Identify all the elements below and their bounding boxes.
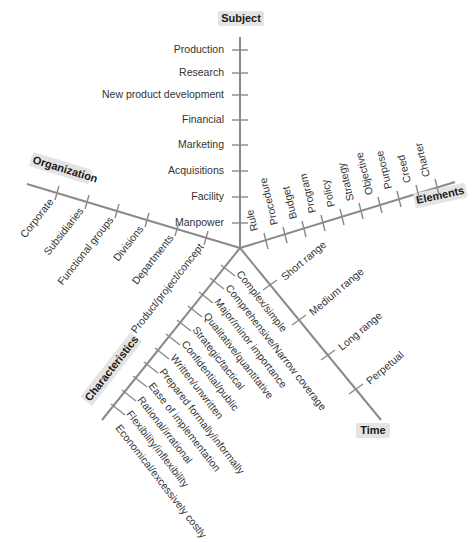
elements-label: Objective xyxy=(353,151,375,197)
time-label: Perpetual xyxy=(364,348,406,386)
subject-label: Financial xyxy=(182,113,224,125)
subject-label: Manpower xyxy=(175,216,225,228)
elements-label: Purpose xyxy=(373,149,394,190)
elements-axis: Elements Rule Procedure Budget Program P… xyxy=(240,141,468,249)
subject-label: Acquisitions xyxy=(168,164,224,176)
elements-label: Charter xyxy=(412,141,432,178)
organization-label: Corporate xyxy=(17,196,55,240)
elements-label: Procedure xyxy=(257,176,280,226)
elements-label: Budget xyxy=(279,185,299,220)
subject-label: Marketing xyxy=(178,138,224,150)
subject-label: New product development xyxy=(102,88,224,100)
subject-label: Research xyxy=(179,66,224,78)
characteristics-axis: Characteristics Complex/simple Comprehen… xyxy=(80,248,329,541)
planning-dimensions-diagram: Subject Production Research New product … xyxy=(0,0,473,542)
elements-label: Creed xyxy=(394,154,413,185)
organization-axis: Organization Corporate Subsidiaries Func… xyxy=(17,152,240,335)
subject-label: Facility xyxy=(191,190,224,202)
time-label: Long range xyxy=(336,309,385,352)
characteristics-axis-title: Characteristics xyxy=(82,333,140,403)
elements-label: Strategy xyxy=(335,161,356,203)
time-label: Short range xyxy=(279,238,329,283)
elements-label: Program xyxy=(296,172,317,214)
time-axis-title: Time xyxy=(360,424,385,436)
organization-label: Divisions xyxy=(110,223,145,263)
elements-label: Rule xyxy=(243,208,260,232)
subject-axis: Subject Production Research New product … xyxy=(102,11,264,248)
subject-axis-title: Subject xyxy=(221,12,261,24)
organization-label: Product/project/concept xyxy=(128,241,205,335)
elements-label: Policy xyxy=(318,178,337,209)
subject-label: Production xyxy=(174,43,224,55)
time-label: Medium range xyxy=(307,265,366,317)
